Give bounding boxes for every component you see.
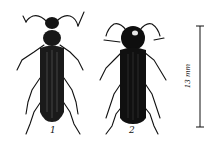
beetle-1-illustration — [0, 0, 100, 144]
specimen-label-1: 1 — [50, 126, 56, 135]
scale-bar-label: 13 mm — [184, 64, 192, 88]
beetle-2-illustration — [92, 0, 182, 144]
specimen-label-2: 2 — [129, 126, 135, 135]
scale-bar — [190, 0, 210, 144]
